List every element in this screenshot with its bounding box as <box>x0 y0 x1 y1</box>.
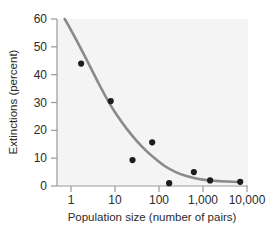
x-axis-tick-label: 100 <box>149 193 169 207</box>
y-axis-tick-label: 40 <box>34 68 48 82</box>
data-point <box>191 169 197 175</box>
data-point <box>149 139 155 145</box>
chart-figure: 0102030405060 1101001,00010,000 Populati… <box>0 0 276 234</box>
y-axis-tick-label: 10 <box>34 151 48 165</box>
x-axis-tick-label: 1 <box>68 193 75 207</box>
y-axis-tick-label: 20 <box>34 123 48 137</box>
data-point <box>108 98 114 104</box>
x-axis-tick-label: 1,000 <box>188 193 218 207</box>
x-axis-tick-label: 10,000 <box>229 193 266 207</box>
data-point <box>237 179 243 185</box>
data-point <box>207 177 213 183</box>
y-axis-tick-label: 30 <box>34 96 48 110</box>
x-axis-title: Population size (number of pairs) <box>68 211 237 223</box>
y-axis-title: Extinctions (percent) <box>7 49 19 154</box>
y-axis-tick-label: 50 <box>34 40 48 54</box>
y-axis-tick-label: 0 <box>40 179 47 193</box>
y-axis-tick-label: 60 <box>34 12 48 26</box>
x-axis-tick-label: 10 <box>108 193 122 207</box>
plot-area-background <box>57 19 248 186</box>
extinctions-vs-population-size-chart: 0102030405060 1101001,00010,000 Populati… <box>0 0 276 234</box>
data-point <box>129 157 135 163</box>
data-point <box>166 180 172 186</box>
data-point <box>78 60 84 66</box>
